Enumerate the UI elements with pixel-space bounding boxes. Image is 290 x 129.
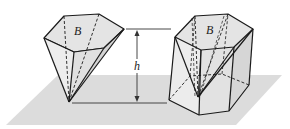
pyramid-base-label: B (74, 24, 82, 38)
diagram-canvas: B h B (0, 0, 290, 129)
prism-base-label: B (206, 23, 214, 37)
height-label: h (134, 59, 140, 73)
